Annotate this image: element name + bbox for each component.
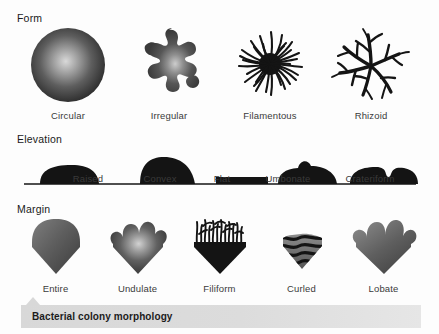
lobate-margin-icon — [349, 216, 419, 278]
caption-pointer-icon — [26, 297, 40, 305]
rhizoid-colony-icon — [329, 26, 413, 104]
form-item-label: Rhizoid — [355, 110, 388, 121]
elevation-item-label: Flat — [214, 173, 230, 184]
entire-margin-icon — [21, 216, 91, 278]
elevation-item-label: Raised — [73, 173, 103, 184]
form-item-circular: Circular — [18, 26, 119, 121]
form-item-label: Circular — [51, 110, 85, 121]
margin-item-filiform: Filiform — [179, 216, 261, 294]
elevation-item-label: Umbonate — [265, 173, 310, 184]
elevation-item-label: Crateriform — [345, 173, 394, 184]
section-title-form: Form — [17, 12, 42, 24]
margin-item-label: Lobate — [369, 283, 399, 294]
form-item-filamentous: Filamentous — [220, 26, 321, 121]
margin-item-label: Filiform — [203, 283, 235, 294]
elevation-item-label: Convex — [143, 173, 176, 184]
irregular-colony-icon — [127, 26, 211, 104]
margin-item-undulate: Undulate — [97, 216, 179, 294]
caption-bar: Bacterial colony morphology — [21, 305, 421, 328]
margin-item-label: Curled — [287, 283, 316, 294]
margin-item-curled: Curled — [261, 216, 343, 294]
section-title-margin: Margin — [17, 203, 50, 215]
form-item-label: Filamentous — [243, 110, 296, 121]
form-item-irregular: Irregular — [119, 26, 220, 121]
margin-item-label: Undulate — [118, 283, 157, 294]
circular-colony-icon — [26, 26, 110, 104]
margin-item-label: Entire — [43, 283, 69, 294]
undulate-margin-icon — [103, 216, 173, 278]
margin-row: Entire Undulate — [0, 216, 439, 294]
form-item-label: Irregular — [151, 110, 188, 121]
caption-text: Bacterial colony morphology — [21, 311, 173, 322]
filamentous-colony-icon — [228, 26, 312, 104]
form-item-rhizoid: Rhizoid — [321, 26, 422, 121]
bacterial-colony-morphology-figure: Form Circular — [0, 0, 439, 334]
form-row: Circular Irregular — [0, 26, 439, 121]
filiform-margin-icon — [185, 216, 255, 278]
margin-item-lobate: Lobate — [343, 216, 425, 294]
curled-margin-icon — [267, 216, 337, 278]
elevation-labels: Raised Convex Flat Umbonate Crateriform — [0, 147, 439, 167]
section-title-elevation: Elevation — [17, 133, 62, 145]
margin-item-entire: Entire — [15, 216, 97, 294]
